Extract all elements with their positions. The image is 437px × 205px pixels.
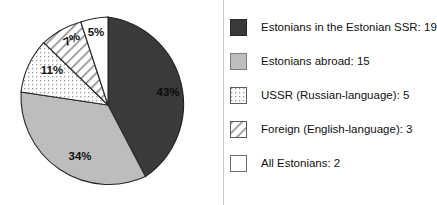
legend-swatch-solid-dark-icon: [230, 19, 247, 36]
pie-chart-area: 43% 34% 11% 7% 5%: [0, 0, 222, 205]
pie-chart-svg: 43% 34% 11% 7% 5%: [0, 0, 222, 205]
pie-slice-label-34: 34%: [68, 150, 91, 162]
legend-swatch-solid-gray-icon: [230, 53, 247, 70]
legend: Estonians in the Estonian SSR: 19 Estoni…: [223, 0, 433, 205]
legend-item-all-estonians[interactable]: All Estonians: 2: [230, 155, 434, 172]
legend-item-label: Estonians in the Estonian SSR: 19: [261, 22, 437, 34]
legend-items: Estonians in the Estonian SSR: 19 Estoni…: [230, 19, 434, 172]
legend-swatch-fine-dots-icon: [230, 87, 247, 104]
legend-item-label: Estonians abroad: 15: [261, 56, 370, 68]
pie-slice-label-11: 11%: [41, 64, 63, 76]
pie-slice-label-5: 5%: [88, 26, 105, 38]
legend-item-ussr-russian-language[interactable]: USSR (Russian-language): 5: [230, 87, 434, 104]
legend-item-label: Foreign (English-language): 3: [261, 124, 413, 136]
legend-item-label: USSR (Russian-language): 5: [261, 90, 409, 102]
legend-item-label: All Estonians: 2: [261, 158, 340, 170]
legend-item-foreign-english-language[interactable]: Foreign (English-language): 3: [230, 121, 434, 138]
legend-item-estonians-abroad[interactable]: Estonians abroad: 15: [230, 53, 434, 70]
legend-swatch-empty-white-icon: [230, 155, 247, 172]
legend-swatch-diagonal-hatch-icon: [230, 121, 247, 138]
pie-slice-label-43: 43%: [156, 86, 179, 98]
legend-item-estonians-in-estonian-ssr[interactable]: Estonians in the Estonian SSR: 19: [230, 19, 434, 36]
